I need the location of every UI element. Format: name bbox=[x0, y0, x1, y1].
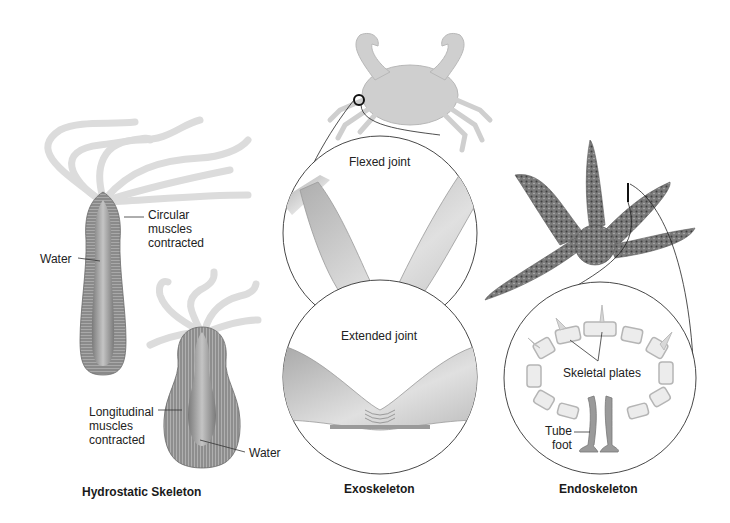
crab bbox=[330, 33, 490, 150]
label-flexed-joint: Flexed joint bbox=[349, 155, 410, 169]
caption-exoskeleton: Exoskeleton bbox=[344, 482, 415, 496]
label-skeletal-plates: Skeletal plates bbox=[563, 366, 641, 380]
caption-hydrostatic-skeleton: Hydrostatic Skeleton bbox=[82, 485, 201, 499]
label-water-top: Water bbox=[40, 252, 72, 266]
skeleton-types-diagram: Circular muscles contracted Water Longit… bbox=[0, 0, 730, 523]
label-longitudinal-muscles: Longitudinal muscles contracted bbox=[89, 405, 154, 447]
label-tube-foot: Tube foot bbox=[545, 424, 572, 452]
label-extended-joint: Extended joint bbox=[341, 329, 417, 343]
extended-joint-inset bbox=[280, 280, 480, 474]
starfish bbox=[485, 140, 695, 300]
label-water-bottom: Water bbox=[249, 446, 281, 460]
caption-endoskeleton: Endoskeleton bbox=[559, 482, 638, 496]
label-circular-muscles: Circular muscles contracted bbox=[148, 208, 204, 250]
hydra-contracted bbox=[150, 272, 258, 468]
